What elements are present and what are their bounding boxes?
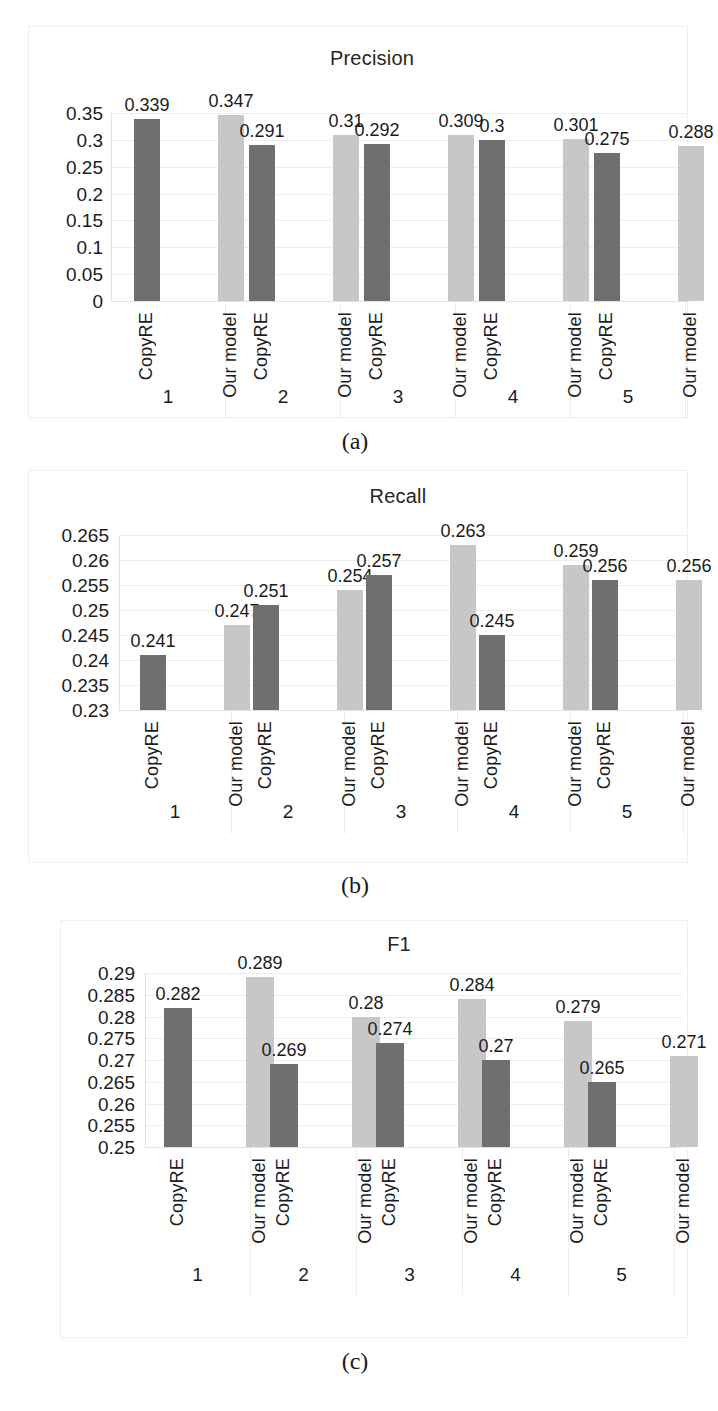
category-group-1: CopyREOur model1 bbox=[145, 1148, 251, 1295]
category-group-3: CopyREOur model3 bbox=[345, 711, 458, 834]
bar-copyre-group-5 bbox=[588, 1082, 616, 1147]
y-tick-label: 0.05 bbox=[66, 265, 103, 284]
y-tick-label: 0.24 bbox=[72, 651, 109, 670]
series-tick-label-copyre: CopyRE bbox=[366, 312, 387, 380]
bar-copyre-group-1 bbox=[140, 655, 166, 710]
y-axis-precision: 0.350.30.250.20.150.10.050 bbox=[35, 113, 103, 301]
bar-value-label: 0.309 bbox=[438, 111, 483, 132]
plot-area-recall: 0.2410.2470.2510.2540.2570.2630.2450.259… bbox=[119, 535, 689, 710]
y-tick-label: 0.1 bbox=[77, 238, 103, 257]
bar-value-label: 0.265 bbox=[579, 1058, 624, 1079]
bar-value-label: 0.289 bbox=[237, 953, 282, 974]
series-tick-label-our-model: Our model bbox=[673, 1158, 694, 1244]
bar-value-label: 0.269 bbox=[261, 1040, 306, 1061]
bar-value-label: 0.339 bbox=[124, 95, 169, 116]
category-group-3: CopyREOur model3 bbox=[341, 302, 456, 419]
category-number-label: 1 bbox=[145, 1264, 250, 1286]
bar-value-label: 0.347 bbox=[208, 91, 253, 112]
bar-value-label: 0.288 bbox=[668, 122, 713, 143]
y-tick-label: 0.15 bbox=[66, 211, 103, 230]
y-tick-label: 0.255 bbox=[87, 1116, 135, 1135]
bar-value-label: 0.28 bbox=[348, 993, 383, 1014]
y-tick-label: 0 bbox=[92, 292, 103, 311]
category-number-label: 3 bbox=[345, 801, 457, 823]
y-axis-recall: 0.2650.260.2550.250.2450.240.2350.23 bbox=[33, 535, 109, 710]
series-tick-label-copyre: CopyRE bbox=[485, 1158, 506, 1226]
y-tick-label: 0.23 bbox=[72, 701, 109, 720]
chart-panel-recall: Recall 0.2650.260.2550.250.2450.240.2350… bbox=[28, 470, 688, 863]
category-group-4: CopyREOur model4 bbox=[458, 711, 571, 834]
y-tick-label: 0.26 bbox=[72, 551, 109, 570]
gridline bbox=[120, 535, 689, 536]
chart-title-precision: Precision bbox=[43, 47, 701, 70]
bar-value-label: 0.279 bbox=[555, 997, 600, 1018]
chart-title-recall: Recall bbox=[69, 485, 718, 508]
bar-value-label: 0.257 bbox=[356, 551, 401, 572]
y-tick-label: 0.3 bbox=[77, 130, 103, 149]
bar-our-model-group-2 bbox=[337, 590, 363, 710]
bar-copyre-group-4 bbox=[479, 635, 505, 710]
bar-value-label: 0.3 bbox=[479, 116, 504, 137]
bar-copyre-group-5 bbox=[592, 580, 618, 710]
bar-value-label: 0.256 bbox=[582, 556, 627, 577]
bar-our-model-group-5 bbox=[676, 580, 702, 710]
y-tick-label: 0.29 bbox=[98, 964, 135, 983]
caption-b: (b) bbox=[0, 872, 710, 899]
plot-area-f1: 0.2820.2890.2690.280.2740.2840.270.2790.… bbox=[145, 973, 681, 1147]
chart-title-f1: F1 bbox=[86, 933, 712, 956]
caption-a: (a) bbox=[0, 428, 710, 455]
y-tick-label: 0.275 bbox=[87, 1029, 135, 1048]
gridline bbox=[146, 995, 681, 996]
chart-panel-precision: Precision 0.350.30.250.20.150.10.050 0.3… bbox=[28, 26, 688, 418]
category-axis-precision: CopyREOur model1CopyREOur model2CopyREOu… bbox=[111, 301, 689, 419]
bar-copyre-group-1 bbox=[164, 1008, 192, 1147]
y-tick-label: 0.25 bbox=[66, 157, 103, 176]
caption-c: (c) bbox=[0, 1348, 710, 1375]
category-number-label: 5 bbox=[571, 801, 683, 823]
category-group-5: CopyREOur model5 bbox=[571, 302, 686, 419]
bar-value-label: 0.241 bbox=[130, 631, 175, 652]
series-tick-label-copyre: CopyRE bbox=[255, 721, 276, 789]
y-tick-label: 0.25 bbox=[98, 1138, 135, 1157]
bar-value-label: 0.282 bbox=[155, 984, 200, 1005]
category-number-label: 4 bbox=[458, 801, 570, 823]
bar-our-model-group-1 bbox=[224, 625, 250, 710]
series-tick-label-copyre: CopyRE bbox=[481, 721, 502, 789]
y-tick-label: 0.265 bbox=[61, 526, 109, 545]
y-tick-label: 0.265 bbox=[87, 1072, 135, 1091]
bar-our-model-group-5 bbox=[670, 1056, 698, 1147]
category-group-5: CopyREOur model5 bbox=[569, 1148, 675, 1295]
category-group-1: CopyREOur model1 bbox=[119, 711, 232, 834]
bar-value-label: 0.292 bbox=[354, 120, 399, 141]
category-number-label: 2 bbox=[251, 1264, 356, 1286]
y-tick-label: 0.255 bbox=[61, 576, 109, 595]
category-number-label: 5 bbox=[571, 386, 685, 408]
bar-value-label: 0.275 bbox=[584, 129, 629, 150]
bar-value-label: 0.274 bbox=[367, 1019, 412, 1040]
bar-copyre-group-4 bbox=[479, 140, 505, 301]
bar-our-model-group-5 bbox=[678, 146, 704, 301]
category-number-label: 4 bbox=[456, 386, 570, 408]
series-tick-label-copyre: CopyRE bbox=[142, 721, 163, 789]
y-tick-label: 0.26 bbox=[98, 1094, 135, 1113]
bar-copyre-group-3 bbox=[366, 575, 392, 710]
series-tick-label-copyre: CopyRE bbox=[596, 312, 617, 380]
category-group-2: CopyREOur model2 bbox=[251, 1148, 357, 1295]
series-tick-label-copyre: CopyRE bbox=[368, 721, 389, 789]
category-group-3: CopyREOur model3 bbox=[357, 1148, 463, 1295]
y-tick-label: 0.35 bbox=[66, 104, 103, 123]
category-group-1: CopyREOur model1 bbox=[111, 302, 226, 419]
y-tick-label: 0.245 bbox=[61, 626, 109, 645]
y-tick-label: 0.285 bbox=[87, 985, 135, 1004]
bar-value-label: 0.27 bbox=[478, 1036, 513, 1057]
bar-value-label: 0.245 bbox=[469, 611, 514, 632]
series-tick-label-our-model: Our model bbox=[678, 721, 699, 807]
plot-area-precision: 0.3390.3470.2910.310.2920.3090.30.3010.2… bbox=[111, 113, 689, 301]
category-number-label: 1 bbox=[119, 801, 231, 823]
bar-value-label: 0.271 bbox=[661, 1032, 706, 1053]
bar-copyre-group-5 bbox=[594, 153, 620, 301]
category-number-label: 2 bbox=[226, 386, 340, 408]
category-number-label: 4 bbox=[463, 1264, 568, 1286]
series-tick-label-copyre: CopyRE bbox=[591, 1158, 612, 1226]
